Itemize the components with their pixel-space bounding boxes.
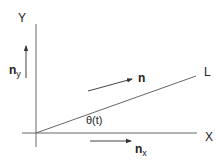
n-y-subscript: y <box>16 69 21 79</box>
x-axis-label: X <box>205 131 213 143</box>
n-x-subscript: x <box>142 148 147 158</box>
n-vector-label: n <box>138 72 145 84</box>
line-l-label: L <box>204 66 211 78</box>
n-vector-arrow <box>88 79 132 91</box>
line-l <box>36 76 196 133</box>
n-y-vector-label: ny <box>9 64 21 77</box>
angle-theta-label: θ(t) <box>86 114 103 126</box>
diagram-canvas <box>0 0 224 162</box>
n-x-vector-label: nx <box>135 143 147 156</box>
y-axis-label: Y <box>18 12 26 24</box>
